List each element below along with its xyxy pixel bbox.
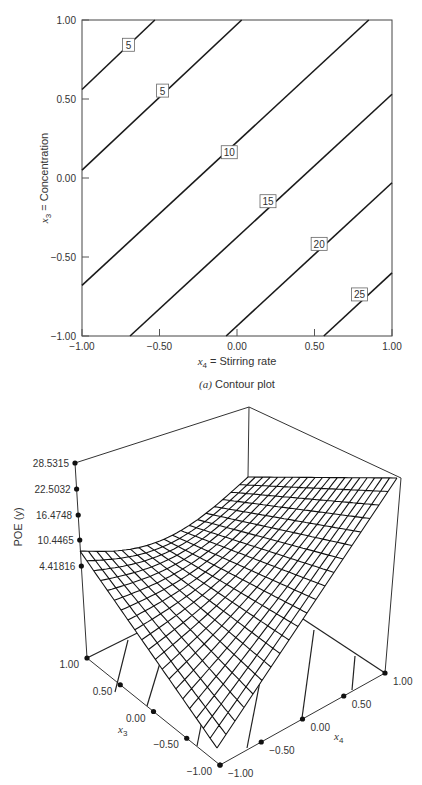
z-tick-label: 16.4748 — [36, 510, 73, 521]
contour-level-label: 15 — [262, 196, 274, 207]
x4-tick-dot — [217, 762, 222, 767]
y-tick-label: 1.00 — [57, 15, 77, 26]
contour-level-label: 5 — [126, 40, 132, 51]
contour-line — [82, 20, 155, 90]
z-tick-dot — [74, 486, 79, 491]
z-axis: 28.531522.503216.474810.44654.41816 — [33, 458, 84, 572]
x3-tick-label: 1.00 — [60, 659, 80, 670]
x3-tick-dot — [151, 709, 156, 714]
x4-tick-dot — [382, 670, 387, 675]
x3-tick-dot — [84, 655, 89, 660]
surface-plot: 28.531522.503216.474810.44654.41816 POE … — [12, 407, 413, 779]
z-tick-label: 4.41816 — [39, 561, 76, 572]
y-tick-label: −1.00 — [51, 331, 77, 342]
x3-tick-dot — [118, 682, 123, 687]
contour-x-axis: −1.00−0.500.000.501.00 — [69, 329, 402, 352]
x4-tick-dot — [300, 716, 305, 721]
x-tick-label: 0.00 — [227, 341, 247, 352]
contour-level-label: 20 — [314, 239, 326, 250]
z-tick-dot — [77, 537, 82, 542]
contour-line — [324, 273, 392, 336]
surface-mesh — [80, 477, 397, 748]
z-axis-label: POE (y) — [12, 507, 24, 546]
x4-tick-dot — [341, 693, 346, 698]
z-tick-label: 10.4465 — [38, 535, 75, 546]
contour-x-axis-label: x4 = Stirring rate — [197, 355, 277, 370]
z-tick-label: 28.5315 — [33, 458, 70, 469]
x3-axis-label: x3 — [117, 723, 128, 738]
floor-contour-line — [352, 656, 355, 690]
x3-axis-sub: 3 — [123, 729, 128, 738]
contour-plot: 1.000.500.00−0.50−1.00 −1.00−0.500.000.5… — [38, 15, 402, 392]
x3-tick-label: −0.50 — [153, 739, 179, 750]
contour-y-axis-label: x3 = Concentration — [38, 133, 53, 224]
contour-level-label: 25 — [354, 289, 366, 300]
x3-tick-label: 0.50 — [93, 686, 113, 697]
x4-tick-label: 0.50 — [352, 699, 372, 710]
x-tick-label: −0.50 — [147, 341, 173, 352]
contour-line — [226, 183, 392, 336]
floor-contour-line — [302, 630, 314, 718]
x-tick-label: 0.50 — [305, 341, 325, 352]
x3-tick-label: 0.00 — [126, 713, 146, 724]
x4-tick-label: 1.00 — [393, 676, 413, 687]
z-tick-dot — [79, 563, 84, 568]
contour-lines: 5510152025 — [82, 20, 392, 336]
surface-fill — [80, 477, 397, 748]
z-tick-dot — [76, 512, 81, 517]
x4-desc: = Stirring rate — [207, 355, 276, 367]
x3-tick-dot — [184, 736, 189, 741]
y-tick-label: 0.00 — [57, 173, 77, 184]
figure: 1.000.500.00−0.50−1.00 −1.00−0.500.000.5… — [0, 0, 422, 785]
contour-caption: (a) Contour plot — [199, 378, 275, 391]
caption-text: Contour plot — [212, 378, 275, 390]
contour-y-axis: 1.000.500.00−0.50−1.00 — [51, 15, 89, 342]
x-tick-label: −1.00 — [69, 341, 95, 352]
z-tick-dot — [72, 460, 77, 465]
x3-tick-label: −1.00 — [187, 766, 213, 777]
x-tick-label: 1.00 — [382, 341, 402, 352]
x3-desc: = Concentration — [38, 133, 50, 214]
y-tick-label: 0.50 — [57, 94, 77, 105]
y-tick-label: −0.50 — [51, 252, 77, 263]
x4-tick-label: −0.50 — [269, 745, 295, 756]
x4-tick-label: −1.00 — [228, 768, 254, 779]
caption-prefix: (a) — [199, 378, 212, 391]
contour-plot-frame — [82, 20, 392, 336]
x4-axis-sub: 4 — [339, 736, 344, 745]
x4-axis-label: x4 — [333, 730, 344, 745]
x4-tick-label: 0.00 — [311, 722, 331, 733]
contour-level-label: 5 — [160, 86, 166, 97]
x4-tick-dot — [259, 739, 264, 744]
contour-level-label: 10 — [224, 147, 236, 158]
z-tick-label: 22.5032 — [34, 484, 71, 495]
